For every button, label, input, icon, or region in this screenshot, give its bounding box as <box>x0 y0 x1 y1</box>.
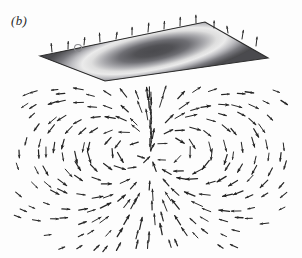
field-arrow <box>51 90 58 91</box>
field-arrow <box>237 93 245 94</box>
figure-panel: (b) <box>0 0 302 258</box>
field-arrow <box>219 104 229 105</box>
field-arrow <box>149 181 150 190</box>
field-arrow <box>222 94 230 95</box>
field-arrow <box>88 107 97 108</box>
field-arrow <box>186 179 198 180</box>
panel-label: (b) <box>11 13 27 29</box>
field-arrow <box>175 130 184 131</box>
plane-rim-arrow <box>99 33 100 42</box>
field-arrow <box>112 149 113 158</box>
field-arrow <box>56 93 64 94</box>
dipole-field-figure <box>0 0 302 258</box>
